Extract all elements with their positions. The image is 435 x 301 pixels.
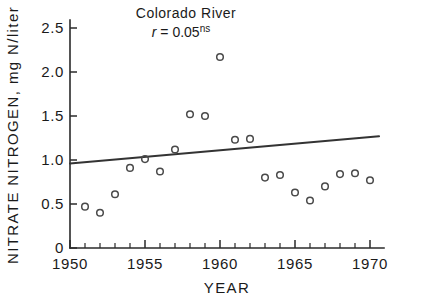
y-tick-label: 2.0 xyxy=(41,63,64,80)
correlation-value: 0.05 xyxy=(172,24,199,40)
data-point xyxy=(352,170,359,177)
y-axis-ticks: 00.51.01.52.02.5 xyxy=(41,19,77,256)
y-tick-label: 0 xyxy=(55,239,64,256)
x-axis-title: YEAR xyxy=(204,279,250,296)
axes-group xyxy=(70,20,384,248)
chart-figure: Colorado River r = 0.05ns 00.51.01.52.02… xyxy=(0,0,435,301)
trend-line-path xyxy=(70,136,379,163)
data-point xyxy=(247,136,254,143)
data-point xyxy=(112,191,119,198)
y-axis-title: NITRATE NITROGEN, mg N/liter xyxy=(4,6,21,264)
chart-title: Colorado River xyxy=(136,5,236,21)
data-point xyxy=(97,210,104,217)
data-point xyxy=(217,54,224,61)
data-point xyxy=(172,146,179,153)
correlation-superscript: ns xyxy=(200,23,211,34)
x-axis-ticks: 19501955196019651970 xyxy=(52,240,388,272)
data-point xyxy=(127,165,134,172)
x-tick-label: 1950 xyxy=(52,255,88,272)
y-tick-label: 2.5 xyxy=(41,19,64,36)
regression-trend-line xyxy=(70,136,379,163)
data-point xyxy=(322,183,329,190)
chart-title-group: Colorado River r = 0.05ns xyxy=(136,5,236,40)
correlation-annotation: r = 0.05ns xyxy=(152,23,210,40)
data-point xyxy=(187,111,194,118)
data-point xyxy=(157,168,164,175)
correlation-equals: = xyxy=(156,24,172,40)
data-point xyxy=(292,189,299,196)
x-tick-label: 1965 xyxy=(277,255,313,272)
data-point xyxy=(337,171,344,178)
data-point xyxy=(202,113,209,120)
y-tick-label: 1.0 xyxy=(41,151,64,168)
data-point xyxy=(82,203,89,210)
scatter-plot: Colorado River r = 0.05ns 00.51.01.52.02… xyxy=(0,0,435,301)
data-point xyxy=(262,174,269,181)
data-point xyxy=(307,197,314,204)
x-tick-label: 1955 xyxy=(127,255,163,272)
data-point xyxy=(232,136,239,143)
data-point xyxy=(277,172,284,179)
x-tick-label: 1970 xyxy=(352,255,388,272)
y-tick-label: 1.5 xyxy=(41,107,64,124)
x-tick-label: 1960 xyxy=(202,255,238,272)
y-tick-label: 0.5 xyxy=(41,195,64,212)
data-points-group xyxy=(82,54,374,216)
data-point xyxy=(367,177,374,184)
